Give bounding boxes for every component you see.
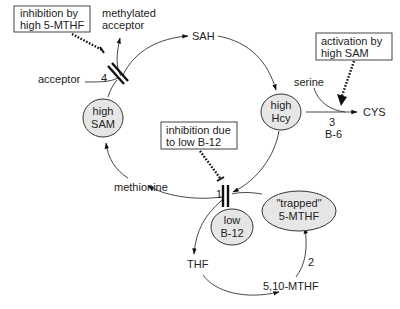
inhibition-line-b12: [200, 151, 220, 178]
ellipse-high-sam: high SAM: [83, 99, 123, 137]
box-sam-line2: high SAM: [321, 47, 369, 59]
arrow-node4-to-sah: [123, 36, 188, 75]
mthf-line2: 5-MTHF: [279, 210, 320, 222]
label-methylene-thf: 5,10-MTHF: [263, 280, 319, 292]
label-sah: SAH: [192, 30, 215, 42]
hcy-line1: high: [271, 99, 292, 111]
line-sam-to-node4: [108, 80, 117, 97]
inhibition-line-mthf: [72, 34, 102, 50]
arrow-methionine-to-sam: [106, 143, 128, 178]
label-acceptor: acceptor: [38, 73, 81, 85]
enzyme-label-2: 2: [308, 256, 314, 268]
mthf-line1: "trapped": [276, 197, 321, 209]
label-methylated-acceptor-2: acceptor: [102, 19, 145, 31]
enzyme-label-1: 1: [216, 188, 222, 200]
arrow-methylene-thf-to-mthf: [296, 228, 306, 277]
sam-line1: high: [93, 105, 114, 117]
hcy-line2: Hcy: [272, 112, 291, 124]
box-b12-line1: inhibition due: [166, 124, 231, 136]
sam-line2: SAM: [91, 118, 115, 130]
enzyme-label-4: 4: [101, 72, 107, 84]
box-mthf-line2: high 5-MTHF: [20, 19, 84, 31]
line-mthf-to-node1: [232, 193, 262, 195]
label-thf: THF: [187, 258, 209, 270]
activation-line-sam: [342, 61, 354, 96]
enzyme-node-1: [223, 185, 228, 207]
ellipse-low-b12: low B-12: [211, 209, 253, 245]
enzyme-label-3: 3: [329, 116, 335, 128]
box-mthf-line1: inhibition by: [20, 7, 79, 19]
label-serine: serine: [294, 76, 324, 88]
box-sam-line1: activation by: [321, 35, 383, 47]
arrow-hcy-to-node1: [233, 131, 279, 192]
label-cys: CYS: [363, 106, 386, 118]
box-b12-line2: to low B-12: [166, 136, 221, 148]
b12-line2: B-12: [220, 227, 243, 239]
enzyme-cofactor-b6: B-6: [325, 128, 342, 140]
activation-arrowhead: [337, 94, 347, 106]
label-methionine: methionine: [114, 181, 168, 193]
label-methylated-acceptor-1: methylated: [102, 7, 156, 19]
box-inhibition-high-mthf: inhibition by high 5-MTHF: [14, 6, 90, 32]
ellipse-high-hcy: high Hcy: [261, 94, 301, 130]
methionine-cycle-diagram: high SAM high Hcy low B-12 "trapped" 5-M…: [0, 0, 400, 309]
arrow-sah-to-hcy: [218, 36, 276, 90]
b12-line1: low: [224, 214, 241, 226]
box-activation-high-sam: activation by high SAM: [316, 33, 392, 60]
ellipse-trapped-mthf: "trapped" 5-MTHF: [262, 191, 336, 231]
box-inhibition-low-b12: inhibition due to low B-12: [161, 122, 237, 149]
